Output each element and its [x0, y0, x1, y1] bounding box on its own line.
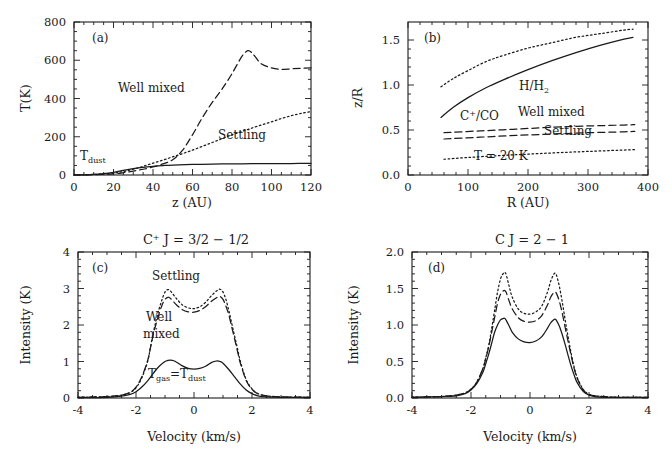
x-tick-label: 80: [225, 180, 240, 194]
x-tick-label: 20: [106, 180, 121, 194]
curve-t-gas-t-dust: [412, 318, 648, 397]
y-tick-label: 4: [63, 245, 70, 259]
y-tick-label: 2: [63, 318, 70, 332]
panel-b-label: (b): [424, 31, 441, 45]
panel-b-frame: [408, 22, 648, 175]
panel-b-plot-area: [408, 22, 648, 175]
panel-b-y-axis-label: z/R: [350, 87, 365, 108]
panel-b-curves: [441, 29, 635, 159]
panel-a-annotation-well-mixed: Well mixed: [118, 81, 185, 95]
panel-a-label: (a): [92, 31, 109, 45]
y-tick-label: 0.5: [386, 355, 404, 369]
y-tick-label: 1.0: [386, 318, 404, 332]
y-tick-label: 1.5: [382, 33, 400, 47]
panel-a-x-axis-label: z (AU): [172, 195, 212, 210]
panel-d-plot-area: [412, 252, 648, 398]
y-tick-label: 0.5: [382, 123, 400, 137]
panel-d-x-tick-labels: -4-2024: [406, 403, 651, 417]
x-tick-label: 0: [190, 403, 197, 417]
panel-d-frame: [412, 252, 648, 398]
x-tick-label: 0: [70, 180, 77, 194]
x-tick-label: 120: [300, 180, 322, 194]
panel-b-annotation-h-h2: H/H2: [519, 79, 549, 95]
panel-c-title: C+ J = 3/2 − 1/2: [143, 232, 249, 247]
curve-well-mixed: [412, 290, 648, 397]
panel-d-curves: [412, 272, 648, 397]
panel-a-curves: [74, 51, 311, 175]
panel-b: 0100200300400 0.00.51.01.5 R (AU) z/R (b…: [336, 0, 672, 225]
panel-b-ticks: [408, 22, 648, 175]
curve-settling: [74, 112, 311, 176]
x-tick-label: 4: [306, 403, 313, 417]
x-tick-label: 400: [637, 180, 659, 194]
x-tick-label: 2: [585, 403, 592, 417]
y-tick-label: 0.0: [386, 391, 404, 405]
x-tick-label: 300: [577, 180, 599, 194]
panel-c: C+ J = 3/2 − 1/2 -4-2024 01234 Velocity …: [0, 226, 330, 463]
panel-b-annotation-well-mixed: Well mixed: [518, 105, 585, 119]
figure-root: 020406080100120 0200400600800 z (AU) T(K…: [0, 0, 672, 463]
panel-a-annotation-settling: Settling: [218, 128, 266, 142]
panel-a-annotation-tdust: Tdust: [80, 149, 106, 165]
panel-d-y-axis-label: Intensity (K): [346, 285, 361, 364]
panel-a-x-tick-labels: 020406080100120: [70, 180, 322, 194]
panel-a-plot-area: [74, 22, 311, 175]
curve-settling: [412, 272, 648, 397]
panel-d: C J = 2 − 1 -4-2024 0.00.51.01.52.0 Velo…: [336, 226, 672, 463]
x-tick-label: -4: [406, 403, 417, 417]
y-tick-label: 1.5: [386, 282, 404, 296]
panel-c-y-axis-label: Intensity (K): [18, 285, 33, 364]
x-tick-label: 0: [526, 403, 533, 417]
panel-b-y-tick-labels: 0.00.51.01.5: [382, 33, 400, 182]
x-tick-label: 2: [248, 403, 255, 417]
x-tick-label: 0: [404, 180, 411, 194]
y-tick-label: 200: [44, 130, 66, 144]
panel-c-annotation-well: Well: [146, 310, 172, 324]
x-tick-label: 100: [261, 180, 283, 194]
y-tick-label: 0.0: [382, 168, 400, 182]
x-tick-label: 4: [644, 403, 651, 417]
panel-d-ticks: [412, 252, 648, 398]
y-tick-label: 800: [44, 15, 66, 29]
curve-t-20-k: [444, 150, 635, 160]
curve-c-co-well-mixed-upper-dashed: [444, 125, 635, 133]
panel-a-frame: [74, 22, 311, 175]
panel-a-y-tick-labels: 0200400600800: [44, 15, 66, 182]
y-tick-label: 600: [44, 53, 66, 67]
x-tick-label: -2: [130, 403, 141, 417]
y-tick-label: 0: [63, 391, 70, 405]
x-tick-label: -2: [465, 403, 476, 417]
y-tick-label: 1.0: [382, 78, 400, 92]
panel-b-annotation-t20k: T = 20 K: [474, 149, 529, 163]
curve-c-co-settling-lower-dashed: [444, 131, 635, 139]
panel-d-title: C J = 2 − 1: [495, 232, 569, 247]
panel-c-y-tick-labels: 01234: [63, 245, 70, 405]
y-tick-label: 2.0: [386, 245, 404, 259]
panel-b-annotation-settling: Settling: [544, 124, 592, 138]
panel-a: 020406080100120 0200400600800 z (AU) T(K…: [0, 0, 330, 225]
panel-a-y-axis-label: T(K): [18, 84, 33, 111]
y-tick-label: 1: [63, 355, 70, 369]
panel-c-x-tick-labels: -4-2024: [72, 403, 313, 417]
y-tick-label: 400: [44, 92, 66, 106]
panel-c-annotation-settling: Settling: [152, 269, 200, 283]
x-tick-label: 40: [146, 180, 161, 194]
panel-c-x-axis-label: Velocity (km/s): [146, 429, 241, 444]
panel-a-ticks: [74, 22, 311, 175]
x-tick-label: 100: [457, 180, 479, 194]
panel-b-x-axis-label: R (AU): [507, 195, 550, 210]
panel-c-label: (c): [92, 261, 108, 275]
panel-d-label: (d): [428, 261, 445, 275]
x-tick-label: 60: [185, 180, 200, 194]
panel-b-x-tick-labels: 0100200300400: [404, 180, 659, 194]
y-tick-label: 0: [59, 168, 66, 182]
x-tick-label: 200: [517, 180, 539, 194]
y-tick-label: 3: [63, 282, 70, 296]
x-tick-label: -4: [72, 403, 83, 417]
panel-b-annotation-cplus-co: C+/CO: [460, 109, 499, 123]
panel-d-x-axis-label: Velocity (km/s): [482, 429, 577, 444]
curve-well-mixed: [74, 51, 311, 175]
panel-c-annotation-mixed: mixed: [143, 327, 180, 341]
panel-d-y-tick-labels: 0.00.51.01.52.0: [386, 245, 404, 405]
